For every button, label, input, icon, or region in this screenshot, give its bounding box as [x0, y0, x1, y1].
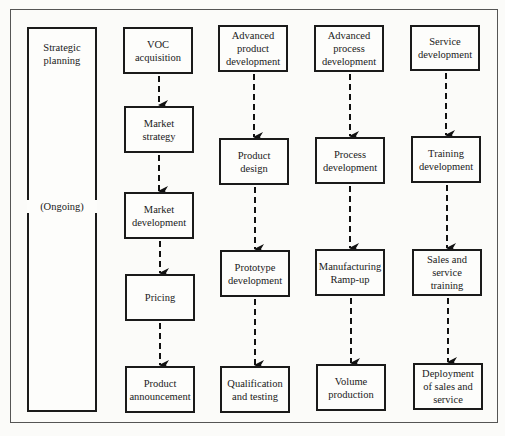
volume-production-label: Volume production [328, 375, 374, 401]
product-announcement-label: Product announcement [129, 377, 190, 403]
sales-service-training-box: Sales and service training [412, 249, 482, 296]
manufacturing-rampup-label: Manufacturing Ramp-up [319, 260, 381, 286]
market-strategy-label: Market strategy [142, 117, 175, 143]
ongoing-note: (Ongoing) [27, 200, 97, 213]
deployment-sales-service-box: Deployment of sales and service [413, 363, 483, 410]
advanced-product-development-label: Advanced product development [226, 29, 280, 68]
voc-acquisition-label: VOC acquisition [135, 38, 181, 64]
process-development-label: Process development [323, 148, 377, 174]
market-development-box: Market development [124, 192, 194, 239]
strategic-planning-label: Strategic planning [43, 41, 80, 67]
prototype-development-label: Prototype development [228, 261, 282, 287]
sales-service-training-label: Sales and service training [427, 253, 467, 292]
training-development-box: Training development [411, 136, 481, 183]
qualification-testing-box: Qualification and testing [220, 366, 290, 413]
product-announcement-box: Product announcement [125, 366, 195, 413]
product-design-label: Product design [238, 149, 271, 175]
manufacturing-rampup-box: Manufacturing Ramp-up [315, 249, 385, 296]
process-development-box: Process development [315, 137, 385, 184]
training-development-label: Training development [419, 147, 473, 173]
market-strategy-box: Market strategy [124, 106, 194, 153]
advanced-product-development-box: Advanced product development [218, 25, 288, 72]
service-development-box: Service development [410, 25, 480, 71]
advanced-process-development-label: Advanced process development [322, 29, 376, 68]
market-development-label: Market development [132, 203, 186, 229]
advanced-process-development-box: Advanced process development [314, 25, 384, 72]
deployment-sales-service-label: Deployment of sales and service [422, 367, 474, 406]
product-design-box: Product design [219, 138, 289, 185]
volume-production-box: Volume production [316, 364, 386, 411]
pricing-label: Pricing [145, 291, 175, 304]
qualification-testing-label: Qualification and testing [227, 377, 282, 403]
service-development-label: Service development [418, 35, 472, 61]
voc-acquisition-box: VOC acquisition [123, 27, 193, 74]
prototype-development-box: Prototype development [220, 250, 290, 297]
strategic-planning-box: Strategic planning [27, 27, 97, 412]
pricing-box: Pricing [125, 274, 195, 321]
